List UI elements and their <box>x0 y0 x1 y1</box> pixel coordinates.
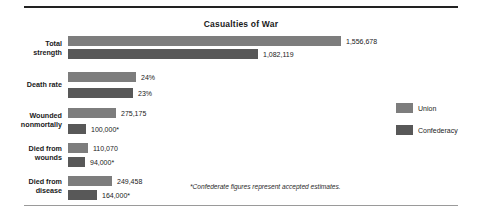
bar-union-total-strength[interactable] <box>68 36 341 46</box>
chart-title: Casualties of War <box>0 19 482 29</box>
bar-union-died-from-wounds[interactable] <box>68 143 88 153</box>
bar-value-union-died-from-wounds: 110,070 <box>93 144 118 153</box>
bottom-divider-rule <box>24 205 458 206</box>
legend-swatch-union <box>396 103 413 113</box>
bar-value-union-died-from-disease: 249,458 <box>117 177 142 186</box>
legend-item-union[interactable]: Union <box>396 103 482 113</box>
category-label-death-rate: Death rate <box>0 81 62 90</box>
bar-group-total-strength: Total strength 1,556,678 1,082,119 <box>0 36 400 68</box>
legend-label-union: Union <box>418 104 436 113</box>
chart-footnote: *Confederate figures represent accepted … <box>190 183 341 190</box>
bar-value-union-wounded-nonmortally: 275,175 <box>121 109 146 118</box>
bar-confederacy-total-strength[interactable] <box>68 49 258 59</box>
bar-value-confederacy-death-rate: 23% <box>138 89 152 98</box>
category-label-wounded-nonmortally: Wounded nonmortally <box>0 112 62 129</box>
legend-item-confederacy[interactable]: Confederacy <box>396 125 482 135</box>
category-label-line1: Death rate <box>27 80 62 89</box>
bar-group-died-from-disease: Died from disease 249,458 164,000* <box>0 176 400 208</box>
category-label-died-from-wounds: Died from wounds <box>0 145 62 162</box>
bar-confederacy-died-from-disease[interactable] <box>68 190 97 200</box>
bar-value-confederacy-died-from-wounds: 94,000* <box>90 158 114 167</box>
legend-swatch-confederacy <box>396 125 413 135</box>
bar-group-died-from-wounds: Died from wounds 110,070 94,000* <box>0 143 400 175</box>
chart-page: Casualties of War Total strength 1,556,6… <box>0 0 482 218</box>
bar-union-died-from-disease[interactable] <box>68 176 112 186</box>
bar-value-confederacy-total-strength: 1,082,119 <box>263 50 294 59</box>
bar-confederacy-died-from-wounds[interactable] <box>68 157 85 167</box>
bar-group-wounded-nonmortally: Wounded nonmortally 275,175 100,000* <box>0 108 400 140</box>
bar-confederacy-death-rate[interactable] <box>68 88 133 98</box>
category-label-total-strength: Total strength <box>0 40 62 57</box>
category-label-died-from-disease: Died from disease <box>0 178 62 195</box>
category-label-line2: strength <box>33 48 62 57</box>
chart-legend: Union Confederacy <box>396 103 482 147</box>
bar-value-union-total-strength: 1,556,678 <box>346 37 377 46</box>
legend-label-confederacy: Confederacy <box>418 126 458 135</box>
bar-confederacy-wounded-nonmortally[interactable] <box>68 124 86 134</box>
category-label-line2: wounds <box>35 153 62 162</box>
top-divider-rule <box>24 6 458 8</box>
bar-value-confederacy-died-from-disease: 164,000* <box>102 191 130 200</box>
bar-value-confederacy-wounded-nonmortally: 100,000* <box>91 125 119 134</box>
bar-union-wounded-nonmortally[interactable] <box>68 108 116 118</box>
category-label-line2: disease <box>36 186 62 195</box>
bar-value-union-death-rate: 24% <box>141 73 155 82</box>
bar-group-death-rate: Death rate 24% 23% <box>0 72 400 104</box>
category-label-line2: nonmortally <box>21 120 62 129</box>
bar-union-death-rate[interactable] <box>68 72 136 82</box>
